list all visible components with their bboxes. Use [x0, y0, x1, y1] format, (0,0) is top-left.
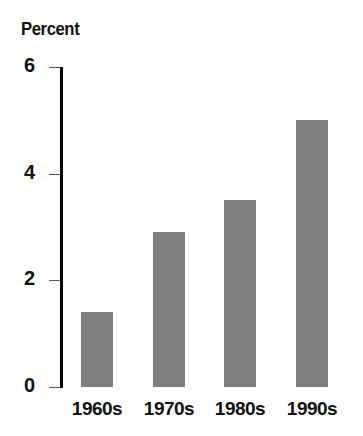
x-tick-label: 1960s: [57, 398, 137, 420]
y-tick-label: 6: [24, 55, 35, 75]
bar-1960s: [81, 312, 113, 387]
y-tick-label: 2: [24, 268, 35, 288]
y-tick-label: 0: [24, 375, 35, 395]
y-tick-label: 4: [24, 162, 35, 182]
x-tick-label: 1980s: [200, 398, 280, 420]
y-axis-label: Percent: [21, 18, 79, 40]
bar-1970s: [153, 232, 185, 387]
y-axis-line: [60, 67, 63, 388]
bar-1980s: [224, 200, 256, 387]
x-tick-label: 1990s: [272, 398, 352, 420]
x-tick-label: 1970s: [129, 398, 209, 420]
bar-chart: Percent 0246 1960s1970s1980s1990s: [0, 0, 363, 436]
bar-1990s: [296, 120, 328, 387]
